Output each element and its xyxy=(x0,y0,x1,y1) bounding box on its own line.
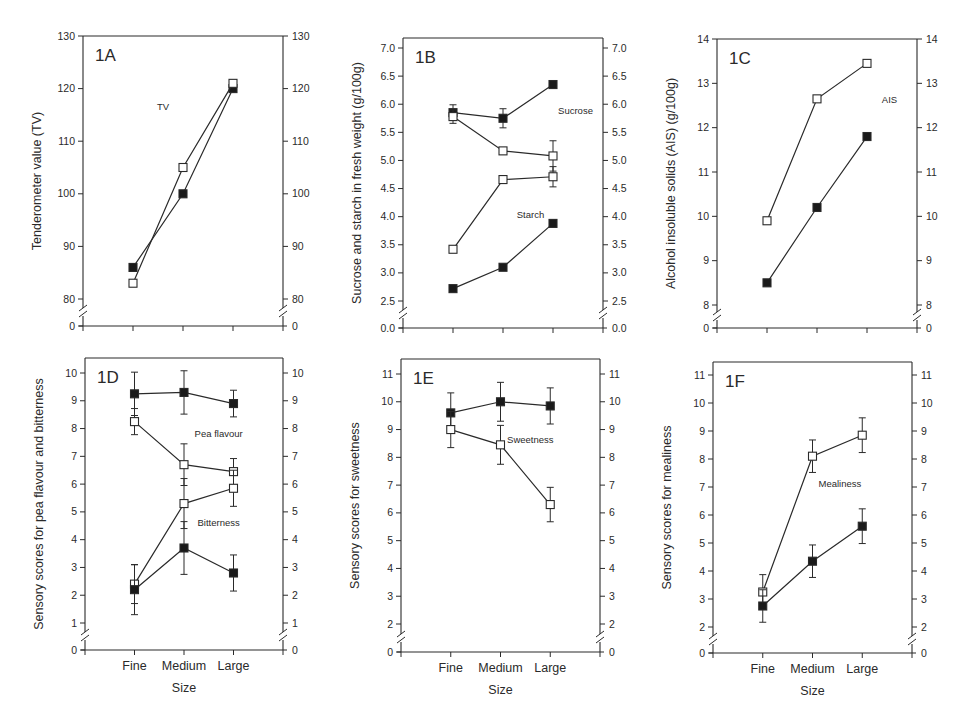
y-tick-label-left: 110 xyxy=(58,135,75,147)
y-tick-label-right: 8 xyxy=(292,422,298,434)
filled-square-marker-icon xyxy=(549,219,557,227)
y-tick-label-right: 10 xyxy=(926,210,938,222)
y-tick-label-right: 11 xyxy=(609,368,620,380)
y-tick-label-left: 6.0 xyxy=(380,98,395,110)
y-tick-label-right: 4 xyxy=(292,533,298,545)
y-tick-label-right: 8 xyxy=(609,451,615,463)
y-tick-label-right: 4 xyxy=(921,565,927,577)
y-tick-label-right: 8 xyxy=(926,299,932,311)
y-tick-label-right: 8 xyxy=(921,453,927,465)
y-tick-label-right: 2.5 xyxy=(612,295,627,307)
filled-square-marker-icon xyxy=(763,279,771,287)
x-axis-title: Size xyxy=(488,683,512,697)
series-line xyxy=(133,89,233,268)
y-tick-label-left: 11 xyxy=(382,368,393,380)
y-tick-label-right: 6.0 xyxy=(612,98,627,110)
y-tick-label-right: 6 xyxy=(609,506,615,518)
filled-square-marker-icon xyxy=(230,400,238,408)
filled-square-marker-icon xyxy=(546,402,554,410)
y-tick-label-left: 4 xyxy=(699,565,705,577)
y-tick-label-left: 4.5 xyxy=(380,182,395,194)
y-tick-label-left: 3 xyxy=(699,593,705,605)
y-tick-label-left: 5 xyxy=(71,505,77,517)
y-tick-label-right: 130 xyxy=(292,30,310,42)
y-tick-label-right: 0 xyxy=(921,647,927,659)
open-square-marker-icon xyxy=(229,79,237,87)
y-tick-label-right: 7.0 xyxy=(612,42,627,54)
series-annotation: Mealiness xyxy=(818,478,861,489)
y-tick-label-left: 10 xyxy=(697,210,709,222)
panel-1b: 2.52.53.03.03.53.54.04.04.54.55.05.05.55… xyxy=(350,38,627,334)
y-tick-label-right: 1 xyxy=(292,617,298,629)
y-tick-label-left: 0 xyxy=(387,646,393,658)
y-axis-title: Tenderometer value (TV) xyxy=(30,112,44,250)
series-ais-open- xyxy=(763,59,871,224)
y-tick-label-right: 5 xyxy=(292,505,298,517)
y-tick-label-right: 100 xyxy=(292,187,310,199)
y-tick-label-left: 5.5 xyxy=(380,126,395,138)
y-tick-label-left: 14 xyxy=(697,33,709,45)
series-sweetness-open- xyxy=(447,412,555,522)
panel-label: 1E xyxy=(413,369,434,388)
y-tick-label-left: 9 xyxy=(71,394,77,406)
y-tick-label-right: 0.0 xyxy=(612,322,627,334)
y-tick-label-right: 9 xyxy=(921,425,927,437)
x-category-label: Medium xyxy=(478,661,522,675)
series-annotation: Pea flavour xyxy=(195,428,243,439)
series-bitterness-filled- xyxy=(131,522,238,615)
y-tick-label-left: 7.0 xyxy=(380,42,395,54)
series-annotation: Sweetness xyxy=(507,434,554,445)
y-tick-label-left: 7 xyxy=(387,479,393,491)
open-square-marker-icon xyxy=(497,441,505,449)
y-tick-label-left: 12 xyxy=(697,121,709,133)
y-tick-label-left: 8 xyxy=(703,299,709,311)
filled-square-marker-icon xyxy=(549,81,557,89)
y-tick-label-right: 5 xyxy=(921,537,927,549)
y-tick-label-right: 3 xyxy=(292,561,298,573)
open-square-marker-icon xyxy=(813,95,821,103)
y-tick-label-right: 14 xyxy=(926,33,938,45)
y-axis-title: Sensory scores for mealiness xyxy=(660,426,674,590)
y-tick-label-left: 9 xyxy=(699,425,705,437)
filled-square-marker-icon xyxy=(858,522,866,530)
y-tick-label-left: 0 xyxy=(71,644,77,656)
y-tick-label-right: 110 xyxy=(292,135,309,147)
series-mealiness-filled- xyxy=(759,509,867,622)
y-tick-label-left: 13 xyxy=(697,77,709,89)
y-tick-label-right: 7 xyxy=(609,479,615,491)
filled-square-marker-icon xyxy=(180,388,188,396)
x-axis-title: Size xyxy=(800,684,824,698)
series-line xyxy=(453,223,553,288)
filled-square-marker-icon xyxy=(131,390,139,398)
y-tick-label-right: 5 xyxy=(609,534,615,546)
series-ais-filled- xyxy=(763,133,871,287)
panel-1e: 223344556677889910101111001ESensory scor… xyxy=(348,359,621,697)
series-sucrose-filled- xyxy=(449,81,557,128)
filled-square-marker-icon xyxy=(179,190,187,198)
y-tick-label-left: 10 xyxy=(65,367,77,379)
y-tick-label-left: 3.5 xyxy=(380,238,395,250)
panel-label: 1D xyxy=(97,368,119,387)
y-tick-label-left: 120 xyxy=(57,82,75,94)
y-axis-title: Sucrose and starch in fresh weight (g/10… xyxy=(350,62,364,304)
x-category-label: Medium xyxy=(790,662,834,676)
y-tick-label-left: 0 xyxy=(703,322,709,334)
y-tick-label-left: 6 xyxy=(71,478,77,490)
y-tick-label-left: 5 xyxy=(387,534,393,546)
y-tick-label-right: 4.0 xyxy=(612,210,627,222)
y-tick-label-right: 3 xyxy=(609,590,615,602)
y-tick-label-left: 4.0 xyxy=(380,210,395,222)
y-tick-label-left: 9 xyxy=(387,423,393,435)
series-annotation: TV xyxy=(157,101,170,112)
y-tick-label-left: 8 xyxy=(699,453,705,465)
figure-grid: 80809090100100110110120120130130001ATend… xyxy=(0,0,963,724)
y-tick-label-left: 5.0 xyxy=(380,154,395,166)
series-tv-open- xyxy=(129,79,237,287)
y-tick-label-right: 12 xyxy=(926,121,938,133)
y-axis-title: Sensory scores for sweetness xyxy=(348,422,362,589)
y-tick-label-right: 4.5 xyxy=(612,182,627,194)
series-mealiness-open- xyxy=(759,418,867,610)
y-tick-label-right: 0 xyxy=(609,646,615,658)
y-tick-label-right: 0 xyxy=(292,320,298,332)
series-pea-flavour-filled- xyxy=(131,371,238,417)
